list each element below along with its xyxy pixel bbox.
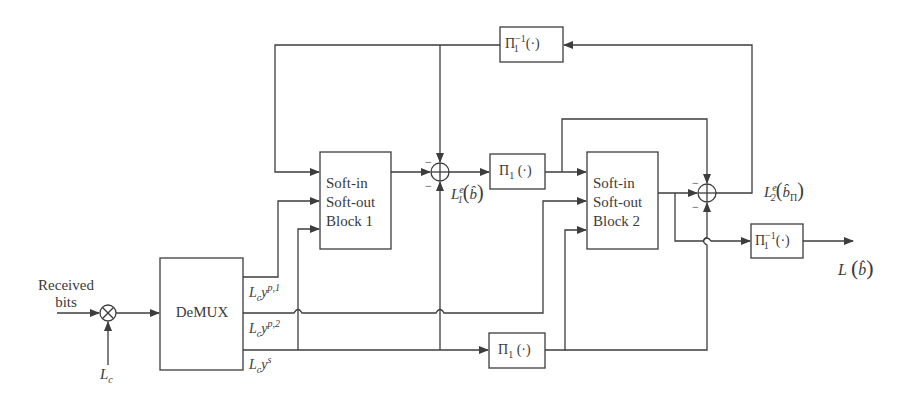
- interleaver-systematic-label: Π1 (·): [498, 343, 531, 357]
- parity2-wire: [243, 201, 586, 313]
- sum2-top-sign: −: [692, 177, 699, 189]
- systematic-label: Lcys: [249, 358, 271, 372]
- systematic-to-block1-wire: [298, 229, 319, 350]
- sum1-top-sign: −: [425, 156, 432, 168]
- lc-scaling-label: Lc: [100, 367, 113, 382]
- deinterleaver-output-label: Π−11 (·): [755, 234, 790, 248]
- sum1-bottom-sign: −: [425, 180, 432, 192]
- deinterleaver-feedback-label: Π−11 (·): [505, 37, 540, 51]
- sum2-junction-icon: [698, 184, 716, 202]
- extrinsic1-label: Le1(b̂): [451, 182, 484, 202]
- extrinsic2-label: Le2(b̂Π): [764, 180, 804, 200]
- output-label: L (b̂): [838, 257, 874, 279]
- siso1-label: Soft-in Soft-out Block 1: [326, 174, 375, 231]
- sum2-bottom-sign: −: [692, 201, 699, 213]
- multiplier-icon: [100, 305, 116, 321]
- interleaver-extrinsic-label: Π1 (·): [499, 164, 532, 178]
- sum1-junction-icon: [431, 163, 449, 181]
- received-bits-label: Received bits: [36, 278, 96, 310]
- parity1-wire: [243, 201, 319, 277]
- demux-label: DeMUX: [163, 305, 241, 320]
- interleaved-systematic-wire: [545, 230, 586, 350]
- siso2-label: Soft-in Soft-out Block 2: [593, 174, 642, 231]
- parity2-label: Lcyp,2: [249, 322, 280, 336]
- parity1-label: Lcyp,1: [249, 286, 280, 300]
- diagram-canvas: [0, 0, 910, 416]
